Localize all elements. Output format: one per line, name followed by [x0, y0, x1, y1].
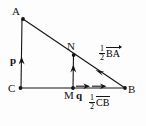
vector-label-q: q	[76, 90, 82, 101]
point-label-N: N	[67, 41, 75, 52]
fraction-denominator: 2	[99, 53, 105, 62]
point-B-dot	[123, 86, 127, 90]
vector-label-p: p	[10, 55, 16, 66]
point-label-C: C	[8, 83, 15, 94]
vector-diagram: A C B M N p q 1 2 BA 1 2 CB	[0, 0, 146, 126]
expression-half-BA: 1 2 BA	[99, 43, 120, 62]
point-label-A: A	[12, 6, 20, 17]
vector-text-BA: BA	[106, 48, 120, 59]
fraction-one-half-CB: 1 2	[89, 94, 95, 111]
vector-arrow-tip-icon	[119, 45, 122, 49]
point-C-dot	[19, 86, 23, 90]
point-label-B: B	[128, 84, 135, 95]
fraction-one-half-BA: 1 2	[99, 45, 105, 62]
vector-notation-CB: CB	[96, 96, 109, 108]
fraction-numerator: 1	[99, 45, 105, 53]
fraction-numerator: 1	[89, 94, 95, 102]
vector-overbar	[96, 96, 110, 97]
vector-notation-BA: BA	[106, 47, 120, 59]
point-N-dot	[72, 53, 76, 57]
point-A-dot	[21, 17, 25, 21]
expression-half-CB: 1 2 CB	[89, 92, 109, 111]
segment-MN	[73, 55, 74, 88]
segment-CA	[21, 19, 22, 88]
fraction-denominator: 2	[89, 102, 95, 111]
vector-text-CB: CB	[96, 97, 109, 108]
geometry-canvas	[0, 0, 146, 126]
point-label-M: M	[64, 90, 74, 101]
